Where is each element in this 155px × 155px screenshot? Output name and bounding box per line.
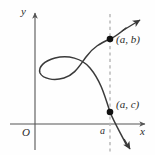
curve-path: [40, 28, 127, 146]
curve-arrow-upper: [122, 20, 140, 31]
curve-arrow-lower: [124, 139, 130, 149]
graph-figure: y x O a (a, b) (a, c): [0, 0, 155, 155]
point-lower-ac: [107, 109, 114, 116]
point-label-ab: (a, b): [116, 34, 140, 45]
x-axis-label: x: [140, 126, 145, 137]
point-upper-ab: [107, 36, 114, 43]
origin-label: O: [22, 127, 30, 138]
y-axis-label: y: [21, 6, 26, 17]
point-label-ac: (a, c): [116, 99, 139, 110]
x-tick-label-a: a: [100, 126, 105, 136]
